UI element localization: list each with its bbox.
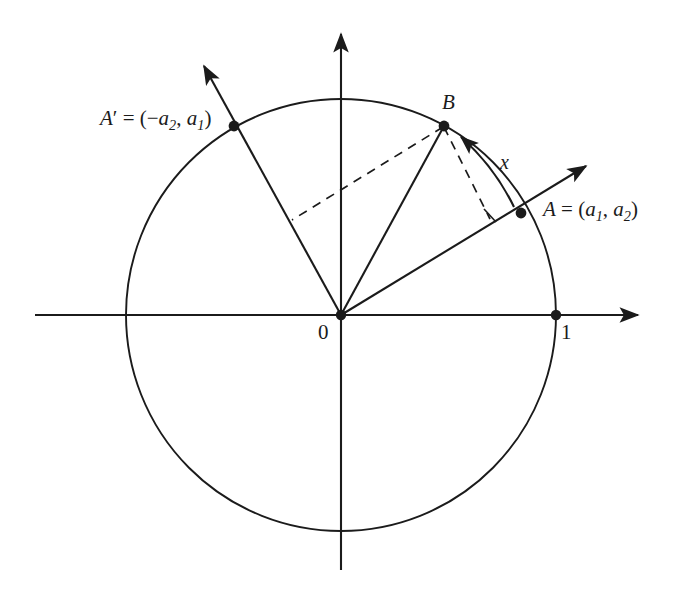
label-origin: 0: [318, 322, 329, 343]
ray-to-point-a: [341, 166, 586, 315]
segment-origin-to-b: [341, 126, 444, 315]
label-arc-x: x: [500, 152, 509, 172]
point-marker-b: [439, 121, 450, 132]
figure-canvas: A′ = (−a2, a1) A = (a1, a2) B 0 1 x: [0, 0, 679, 591]
point-marker-origin: [336, 310, 346, 320]
right-angle-tick: [484, 209, 496, 222]
ray-to-point-a-prime: [204, 66, 341, 315]
label-point-a-prime: A′ = (−a2, a1): [100, 108, 211, 132]
label-a-prime-text: A′ = (−a2, a1): [100, 106, 211, 130]
dashed-line-b-to-a-prime-ray: [292, 127, 443, 220]
label-a-text: A = (a1, a2): [543, 197, 638, 221]
label-unit-one: 1: [561, 322, 572, 343]
point-marker-unit-one: [551, 310, 561, 320]
label-point-a: A = (a1, a2): [543, 199, 638, 223]
unit-circle-diagram: [0, 0, 679, 591]
label-point-b: B: [442, 92, 455, 113]
point-marker-a: [516, 208, 527, 219]
point-marker-a-prime: [229, 121, 240, 132]
